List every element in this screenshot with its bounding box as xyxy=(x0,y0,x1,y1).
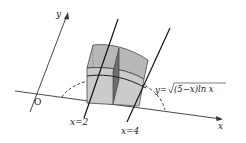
line-x-2-label: x=2 xyxy=(70,117,89,127)
svg-text:(5−x)ln x: (5−x)ln x xyxy=(174,84,214,94)
y-axis-label: y xyxy=(55,9,62,19)
svg-text:y=: y= xyxy=(154,85,167,95)
diagram-canvas: y x O x=2 x=4 y= (5−x)ln x xyxy=(0,0,246,143)
origin-label: O xyxy=(34,97,41,107)
line-x-4-label: x=4 xyxy=(121,126,140,136)
curve-equation-label: y= (5−x)ln x xyxy=(154,83,226,95)
y-axis-arrow-icon xyxy=(64,12,69,20)
x-axis-label: x xyxy=(218,121,223,131)
